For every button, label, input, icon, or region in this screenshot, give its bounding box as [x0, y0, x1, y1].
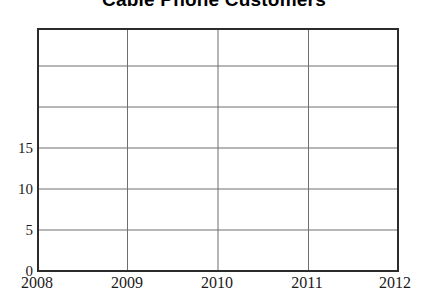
x-axis: 2008 2009 2010 2011 2012 — [0, 0, 428, 305]
x-tick-label-2009: 2009 — [92, 274, 162, 292]
x-tick-label-2012: 2012 — [360, 274, 428, 292]
x-tick-label-2010: 2010 — [182, 274, 252, 292]
x-tick-label-2011: 2011 — [272, 274, 342, 292]
x-tick-label-2008: 2008 — [2, 274, 72, 292]
chart-figure: Cable Phone Customers 15 10 5 0 2008 200… — [0, 0, 428, 305]
